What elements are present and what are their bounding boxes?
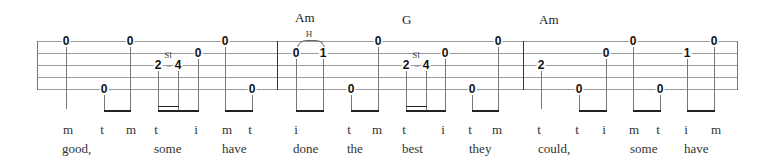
stem bbox=[66, 47, 67, 109]
lyric-word: good, bbox=[62, 142, 91, 155]
finger-label: i bbox=[602, 123, 606, 136]
finger-label: t bbox=[537, 123, 541, 136]
barline-1 bbox=[277, 41, 278, 90]
stem bbox=[178, 71, 179, 111]
chord-label: Am bbox=[539, 13, 559, 26]
beam bbox=[296, 110, 324, 112]
tab-note: 0 bbox=[468, 83, 477, 95]
finger-label: m bbox=[492, 123, 502, 136]
stem bbox=[472, 95, 473, 111]
finger-label: t bbox=[154, 123, 158, 136]
finger-label: t bbox=[347, 123, 351, 136]
stem bbox=[198, 59, 199, 111]
stem bbox=[541, 71, 542, 109]
lyric-word: have bbox=[684, 142, 709, 155]
finger-label: i bbox=[441, 123, 445, 136]
stem bbox=[130, 47, 131, 111]
finger-label: t bbox=[100, 123, 104, 136]
beam bbox=[351, 110, 379, 112]
beam bbox=[225, 110, 253, 112]
tab-note: 0 bbox=[194, 47, 203, 59]
stem bbox=[225, 47, 226, 111]
tab-note: 0 bbox=[221, 35, 230, 47]
beam-sixteenth bbox=[406, 106, 427, 107]
finger-label: i bbox=[194, 123, 198, 136]
tab-note: 4 bbox=[174, 59, 183, 71]
stem bbox=[104, 95, 105, 111]
barline-end bbox=[737, 41, 738, 90]
tab-note: 0 bbox=[441, 47, 450, 59]
slide-label: Sl bbox=[412, 51, 420, 60]
beam bbox=[104, 110, 131, 112]
stem bbox=[687, 59, 688, 111]
stem bbox=[498, 47, 499, 111]
tab-note: 0 bbox=[126, 35, 135, 47]
slide-arrow-icon: → bbox=[412, 62, 420, 70]
beam bbox=[472, 110, 499, 112]
chord-label: Am bbox=[295, 11, 315, 24]
slide-arrow-icon: → bbox=[164, 62, 172, 70]
stem bbox=[378, 47, 379, 111]
tab-note: 0 bbox=[347, 83, 356, 95]
tab-note: 2 bbox=[402, 59, 411, 71]
tab-note: 0 bbox=[248, 83, 257, 95]
stem bbox=[426, 71, 427, 111]
hammer-on-label: H bbox=[306, 30, 313, 39]
stem bbox=[252, 95, 253, 111]
tab-note: 4 bbox=[422, 59, 431, 71]
tab-note: 0 bbox=[62, 35, 71, 47]
tab-note: 1 bbox=[319, 47, 328, 59]
beam bbox=[633, 110, 661, 112]
finger-label: m bbox=[629, 123, 639, 136]
stem bbox=[445, 59, 446, 111]
stem bbox=[633, 47, 634, 111]
lyric-word: best bbox=[402, 142, 423, 155]
staff-line-2 bbox=[37, 53, 737, 54]
tab-note: 0 bbox=[602, 47, 611, 59]
lyric-word: some bbox=[154, 142, 181, 155]
finger-label: t bbox=[575, 123, 579, 136]
staff-line-5 bbox=[37, 89, 737, 90]
beam bbox=[579, 110, 607, 112]
lyric-word: could, bbox=[538, 142, 570, 155]
tab-note: 0 bbox=[656, 83, 665, 95]
beam bbox=[406, 110, 446, 112]
stem bbox=[406, 71, 407, 111]
finger-label: i bbox=[294, 123, 298, 136]
lyric-word: some bbox=[630, 142, 657, 155]
tab-note: 0 bbox=[292, 47, 301, 59]
stem bbox=[296, 59, 297, 111]
finger-label: m bbox=[372, 123, 382, 136]
stem bbox=[714, 47, 715, 111]
finger-label: m bbox=[126, 123, 136, 136]
beam-sixteenth bbox=[158, 106, 179, 107]
stem bbox=[323, 59, 324, 111]
tab-note: 0 bbox=[710, 35, 719, 47]
tab-note: 0 bbox=[629, 35, 638, 47]
stem bbox=[660, 95, 661, 111]
barline-start bbox=[37, 41, 38, 90]
finger-label: i bbox=[684, 123, 688, 136]
finger-label: t bbox=[468, 123, 472, 136]
tab-note: 0 bbox=[374, 35, 383, 47]
lyric-word: have bbox=[222, 142, 247, 155]
tab-note: 0 bbox=[575, 83, 584, 95]
stem bbox=[606, 59, 607, 111]
finger-label: m bbox=[63, 123, 73, 136]
stem bbox=[158, 71, 159, 111]
beam bbox=[687, 110, 715, 112]
stem bbox=[351, 95, 352, 111]
finger-label: m bbox=[222, 123, 232, 136]
banjo-tablature: → → Am G Am H Sl Sl 0 0 0 2 4 0 0 0 0 1 … bbox=[0, 0, 778, 166]
finger-label: t bbox=[402, 123, 406, 136]
tab-note: 2 bbox=[154, 59, 163, 71]
lyric-word: they bbox=[469, 142, 491, 155]
staff-line-3 bbox=[37, 65, 737, 66]
staff-line-4 bbox=[37, 77, 737, 78]
lyric-word: the bbox=[347, 142, 363, 155]
finger-label: t bbox=[248, 123, 252, 136]
barline-2 bbox=[523, 41, 524, 90]
tab-note: 0 bbox=[494, 35, 503, 47]
finger-label: t bbox=[656, 123, 660, 136]
tab-note: 0 bbox=[100, 83, 109, 95]
